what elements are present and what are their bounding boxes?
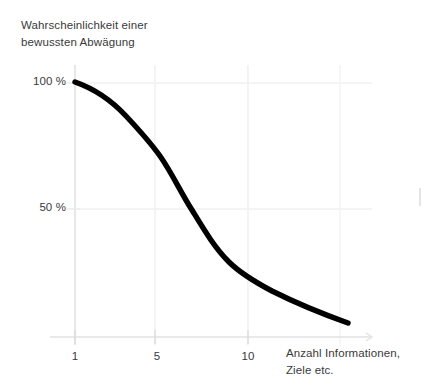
right-edge-artifact	[419, 188, 421, 206]
gridlines-vertical	[155, 65, 340, 345]
chart-plot-area	[0, 0, 426, 392]
x-tick-label-1: 1	[60, 350, 90, 362]
chart-canvas: Wahrscheinlichkeit einer bewussten Abwäg…	[0, 0, 426, 392]
x-tick-label-5: 5	[142, 350, 172, 362]
x-tick-label-10: 10	[233, 350, 263, 362]
x-axis-title: Anzahl Informationen, Ziele etc.	[286, 345, 400, 379]
y-tick-label-50: 50 %	[6, 201, 66, 213]
y-axis-ticks	[68, 83, 80, 209]
data-series-line	[75, 82, 348, 323]
x-axis-line	[50, 333, 372, 341]
y-tick-label-100: 100 %	[6, 75, 66, 87]
